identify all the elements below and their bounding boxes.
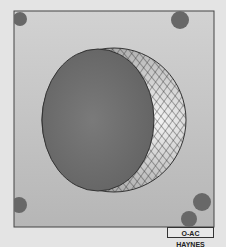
corner-dot-bottom-right-lower xyxy=(181,211,197,227)
corner-dot-top-left xyxy=(13,12,27,26)
corner-dot-bottom-left xyxy=(11,197,27,213)
credit-label: O-AC HAYNES xyxy=(167,227,214,238)
corner-dot-top-right xyxy=(171,11,189,29)
moon-phase-diagram xyxy=(0,0,226,247)
corner-dot-bottom-right-upper xyxy=(193,193,211,211)
inner-disc xyxy=(42,49,154,191)
